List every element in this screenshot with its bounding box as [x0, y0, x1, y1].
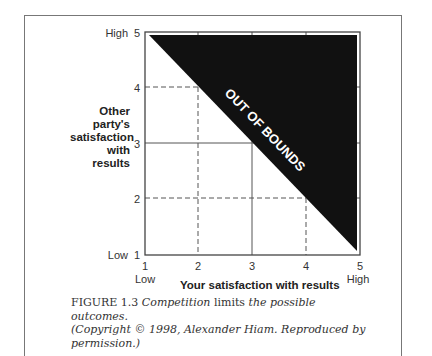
y-axis-title-line: with — [70, 144, 130, 157]
y-axis-title-line: Other — [70, 105, 130, 118]
y-tick-2: 2 — [134, 193, 140, 205]
x-high-label: High — [347, 273, 370, 285]
x-tick-3: 3 — [249, 260, 255, 272]
y-high-label: High — [105, 27, 128, 39]
y-tick-5: 5 — [134, 27, 140, 39]
figure-caption: FIGURE 1.3 Competition limits the possib… — [71, 296, 371, 350]
caption-word: limits — [214, 296, 245, 309]
y-low-label: Low — [108, 249, 128, 261]
y-tick-1: 1 — [134, 249, 140, 261]
y-tick-3: 3 — [134, 138, 140, 150]
y-axis-title-line: results — [70, 157, 130, 170]
x-low-label: Low — [135, 273, 155, 285]
x-tick-5: 5 — [357, 260, 363, 272]
y-axis-title-line: party's — [70, 118, 130, 131]
caption-copyright: (Copyright © 1998, Alexander Hiam. Repro… — [71, 323, 371, 337]
x-tick-1: 1 — [142, 260, 148, 272]
caption-word: Competition — [142, 296, 211, 309]
y-axis-title: Other party's satisfaction with results — [70, 105, 130, 170]
y-tick-4: 4 — [134, 82, 140, 94]
x-tick-4: 4 — [303, 260, 309, 272]
x-axis-title: Your satisfaction with results — [180, 279, 340, 291]
y-axis-title-line: satisfaction — [70, 131, 130, 144]
caption-number: FIGURE 1.3 — [71, 296, 138, 309]
caption-permission: permission.) — [71, 337, 371, 351]
x-tick-2: 2 — [195, 260, 201, 272]
